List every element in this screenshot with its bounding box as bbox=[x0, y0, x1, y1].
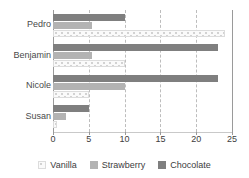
bar-nicole-chocolate bbox=[53, 75, 218, 82]
bar-pedro-strawberry bbox=[53, 22, 92, 29]
y-axis-label-nicole: Nicole bbox=[1, 80, 51, 90]
bar-susan-vanilla bbox=[53, 121, 57, 128]
x-tick-label-5: 5 bbox=[86, 134, 91, 144]
bar-benjamin-chocolate bbox=[53, 44, 218, 51]
y-axis-label-pedro: Pedro bbox=[1, 19, 51, 29]
x-tick-label-0: 0 bbox=[50, 134, 55, 144]
plot-area bbox=[53, 10, 232, 132]
y-axis-label-susan: Susan bbox=[1, 111, 51, 121]
legend-label-chocolate: Chocolate bbox=[170, 160, 211, 170]
bar-benjamin-vanilla bbox=[53, 60, 125, 67]
x-axis-line bbox=[53, 132, 233, 133]
x-tick-label-20: 20 bbox=[191, 134, 201, 144]
bar-pedro-vanilla bbox=[53, 30, 225, 37]
x-axis-tick-labels: 0510152025 bbox=[0, 134, 249, 148]
legend-swatch-chocolate-icon bbox=[158, 161, 166, 169]
legend-label-strawberry: Strawberry bbox=[102, 160, 146, 170]
bar-nicole-vanilla bbox=[53, 91, 89, 98]
bar-nicole-strawberry bbox=[53, 83, 125, 90]
y-axis-category-labels: PedroBenjaminNicoleSusan bbox=[0, 0, 51, 178]
x-tick-label-25: 25 bbox=[227, 134, 237, 144]
legend-item-vanilla[interactable]: Vanilla bbox=[38, 160, 76, 170]
x-tick-label-15: 15 bbox=[155, 134, 165, 144]
legend-label-vanilla: Vanilla bbox=[50, 160, 76, 170]
bar-pedro-chocolate bbox=[53, 14, 125, 21]
bar-susan-strawberry bbox=[53, 113, 66, 120]
legend-swatch-strawberry-icon bbox=[90, 161, 98, 169]
x-tick-label-10: 10 bbox=[120, 134, 130, 144]
bar-benjamin-strawberry bbox=[53, 52, 92, 59]
legend-item-chocolate[interactable]: Chocolate bbox=[158, 160, 211, 170]
legend-swatch-vanilla-icon bbox=[38, 161, 46, 169]
legend-item-strawberry[interactable]: Strawberry bbox=[90, 160, 146, 170]
bar-susan-chocolate bbox=[53, 105, 89, 112]
plot-right-edge bbox=[232, 10, 233, 133]
y-axis-label-benjamin: Benjamin bbox=[1, 50, 51, 60]
bar-chart: PedroBenjaminNicoleSusan 0510152025 Vani… bbox=[0, 0, 249, 178]
chart-legend: VanillaStrawberryChocolate bbox=[0, 157, 249, 173]
